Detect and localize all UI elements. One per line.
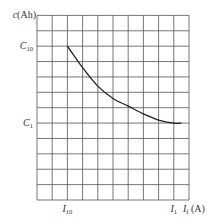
x-axis-label: If (A)	[182, 203, 205, 215]
tick-labels: C10C1I10I1	[20, 40, 177, 215]
y-tick-label: C1	[23, 117, 33, 129]
series-line	[67, 46, 181, 123]
x-tick-label: I1	[170, 203, 178, 215]
y-axis-title: c(Ah)	[13, 9, 36, 21]
y-tick-label: C10	[20, 40, 33, 52]
y-axis-label: c(Ah)	[13, 9, 36, 21]
x-axis-title: If (A)	[182, 203, 205, 215]
x-tick-label: I10	[61, 203, 72, 215]
grid	[37, 15, 189, 200]
capacity-chart: C10C1I10I1 c(Ah) If (A)	[0, 0, 215, 223]
